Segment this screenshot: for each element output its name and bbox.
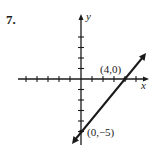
y-axis-label: y [85,10,91,22]
graph: 7. x y (4,0) (0,−5) [0,0,153,151]
problem-number: 7. [6,12,16,27]
y-axis-arrow-icon [79,14,84,20]
y-intercept-point [79,130,83,134]
x-axis-label: x [140,79,146,91]
y-axis: y [78,10,91,145]
x-axis: x [18,76,149,91]
y-intercept-label: (0,−5) [87,126,115,139]
x-intercept-label: (4,0) [100,63,121,76]
x-intercept-point [123,77,127,81]
